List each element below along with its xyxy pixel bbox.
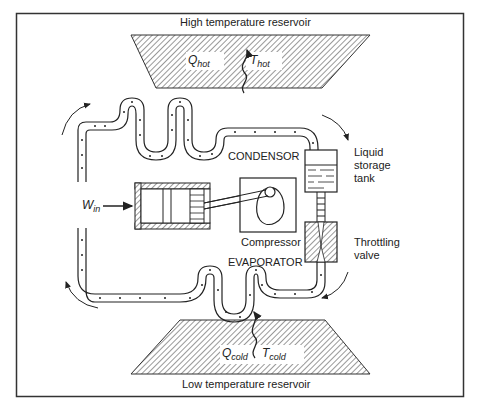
w-in-main: W	[82, 198, 93, 212]
evaporator-label: EVAPORATOR	[228, 256, 303, 269]
t-cold-label: Tcold	[262, 347, 286, 364]
t-hot-sub: hot	[257, 59, 270, 69]
q-hot-main: Q	[188, 53, 197, 67]
compressor-box	[240, 178, 296, 232]
compressor-label: Compressor	[241, 236, 301, 249]
high-temp-reservoir-label: High temperature reservoir	[180, 16, 311, 29]
tank-label-line3: tank	[354, 172, 375, 185]
condensor-label: CONDENSOR	[228, 150, 300, 163]
low-temp-reservoir-label: Low temperature reservoir	[182, 378, 310, 391]
tank-label-line1: Liquid	[354, 146, 383, 159]
crank-pin-icon	[265, 187, 275, 197]
q-cold-main: Q	[222, 346, 231, 360]
q-cold-label: Qcold	[222, 347, 248, 364]
q-hot-label: Qhot	[188, 54, 210, 71]
tank-label-line2: storage	[354, 159, 391, 172]
piston-cylinder	[135, 183, 210, 229]
w-in-sub: in	[93, 204, 100, 214]
valve-label-line2: valve	[354, 249, 380, 262]
q-hot-sub: hot	[197, 59, 210, 69]
liquid-storage-tank	[305, 150, 337, 192]
refrigeration-cycle-diagram: High temperature reservoir Low temperatu…	[0, 0, 478, 410]
liquid-line	[317, 192, 325, 222]
evaporator-bubbles	[81, 239, 322, 318]
refrigerant-loop	[78, 98, 318, 182]
valve-label-line1: Throttling	[354, 236, 400, 249]
w-in-label: Win	[82, 199, 100, 216]
t-hot-label: Thot	[250, 54, 270, 71]
q-cold-sub: cold	[231, 352, 248, 362]
t-cold-sub: cold	[269, 352, 286, 362]
